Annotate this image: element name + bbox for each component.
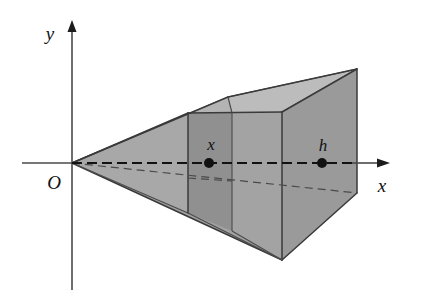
x-axis-label: x — [377, 175, 387, 196]
cross-section-point-marker — [204, 158, 214, 168]
cross-section-label: x — [206, 135, 215, 154]
edge-front-top-ridge — [188, 112, 282, 113]
cross-section-slab — [188, 113, 232, 231]
base-point-marker — [317, 158, 327, 168]
geometry-diagram-svg: y x O x h — [0, 0, 428, 307]
figure-container: y x O x h — [0, 0, 428, 307]
origin-label: O — [47, 172, 61, 193]
y-axis-arrowhead — [68, 20, 77, 32]
y-axis-label: y — [44, 23, 55, 44]
base-distance-label: h — [319, 136, 328, 155]
x-axis-arrowhead — [377, 159, 390, 168]
